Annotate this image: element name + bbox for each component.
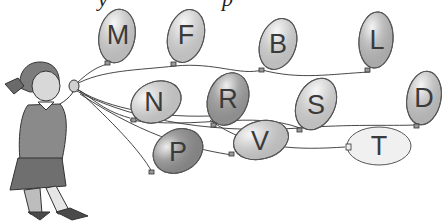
cut-off-text-fragment: y bbox=[98, 0, 108, 12]
cut-off-text-fragment: p bbox=[222, 0, 233, 12]
balloons-and-girl-drawing bbox=[0, 0, 448, 222]
balloon-illustration: y p bbox=[0, 0, 448, 222]
